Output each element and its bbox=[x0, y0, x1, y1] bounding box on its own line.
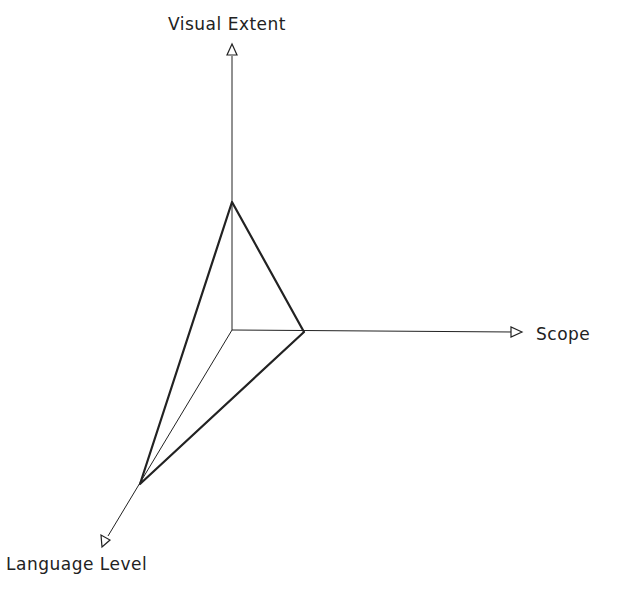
language-level-arrow-icon bbox=[101, 535, 110, 547]
scope-label: Scope bbox=[536, 324, 590, 344]
language-level-label: Language Level bbox=[6, 554, 147, 574]
language-level-axis bbox=[108, 330, 232, 536]
visual-extent-label: Visual Extent bbox=[168, 14, 286, 34]
visual-extent-arrow-icon bbox=[227, 44, 237, 55]
scope-axis bbox=[232, 330, 512, 332]
diagram-canvas: Visual Extent Scope Language Level bbox=[0, 0, 620, 598]
scope-arrow-icon bbox=[511, 327, 522, 337]
